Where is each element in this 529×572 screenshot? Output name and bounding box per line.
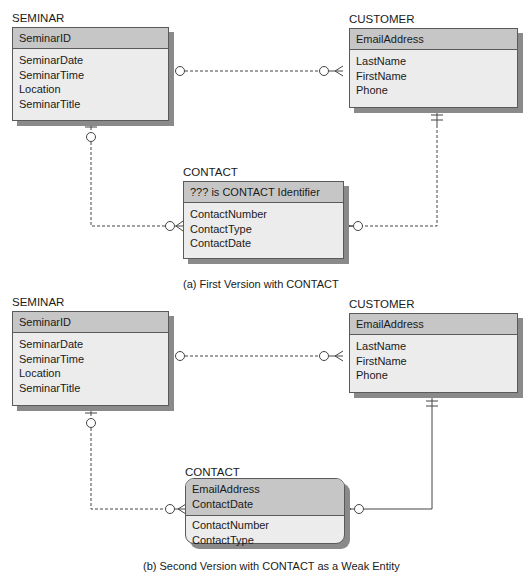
entity-seminar-b[interactable]: SeminarID SeminarDate SeminarTime Locati… — [12, 311, 169, 406]
entity-customer-a[interactable]: EmailAddress LastName FirstName Phone — [349, 28, 518, 108]
entity-title-customer-b: CUSTOMER — [349, 298, 415, 311]
entity-title-customer-a: CUSTOMER — [349, 13, 415, 26]
entity-attributes: SeminarDate SeminarTime Location Seminar… — [13, 49, 168, 115]
caption-a: (a) First Version with CONTACT — [183, 278, 339, 290]
weak-entity-contact-b[interactable]: EmailAddress ContactDate ContactNumber C… — [185, 478, 345, 544]
attribute: SeminarTime — [19, 68, 162, 83]
entity-contact-a[interactable]: ??? is CONTACT Identifier ContactNumber … — [183, 181, 344, 259]
attribute: ContactNumber — [190, 207, 337, 222]
entity-attributes: ContactNumber ContactType — [186, 516, 344, 549]
entity-key: EmailAddress — [350, 314, 517, 335]
attribute: ContactNumber — [192, 518, 338, 533]
attribute: FirstName — [356, 354, 511, 369]
attribute: SeminarTime — [19, 352, 162, 367]
attribute: FirstName — [356, 69, 511, 84]
attribute: ContactDate — [190, 236, 337, 251]
attribute: Phone — [356, 368, 511, 383]
entity-attributes: LastName FirstName Phone — [350, 335, 517, 387]
attribute: ContactType — [192, 533, 338, 548]
entity-keys: EmailAddress ContactDate — [186, 479, 344, 516]
attribute: Location — [19, 82, 162, 97]
entity-key: SeminarID — [13, 28, 168, 49]
attribute: SeminarDate — [19, 337, 162, 352]
entity-title-seminar-b: SEMINAR — [12, 296, 64, 309]
entity-title-seminar-a: SEMINAR — [12, 12, 64, 25]
attribute: SeminarDate — [19, 53, 162, 68]
attribute: SeminarTitle — [19, 97, 162, 112]
entity-attributes: LastName FirstName Phone — [350, 50, 517, 102]
entity-customer-b[interactable]: EmailAddress LastName FirstName Phone — [349, 313, 518, 393]
key-attribute: EmailAddress — [192, 482, 338, 497]
entity-attributes: ContactNumber ContactType ContactDate — [184, 203, 343, 255]
key-attribute: ContactDate — [192, 497, 338, 512]
attribute: LastName — [356, 339, 511, 354]
entity-key: EmailAddress — [350, 29, 517, 50]
entity-key: ??? is CONTACT Identifier — [184, 182, 343, 203]
entity-key: SeminarID — [13, 312, 168, 333]
entity-attributes: SeminarDate SeminarTime Location Seminar… — [13, 333, 168, 399]
entity-title-contact-a: CONTACT — [183, 166, 238, 179]
entity-seminar-a[interactable]: SeminarID SeminarDate SeminarTime Locati… — [12, 27, 169, 121]
attribute: LastName — [356, 54, 511, 69]
attribute: ContactType — [190, 222, 337, 237]
caption-b: (b) Second Version with CONTACT as a Wea… — [143, 560, 400, 572]
attribute: Location — [19, 366, 162, 381]
attribute: SeminarTitle — [19, 381, 162, 396]
attribute: Phone — [356, 83, 511, 98]
